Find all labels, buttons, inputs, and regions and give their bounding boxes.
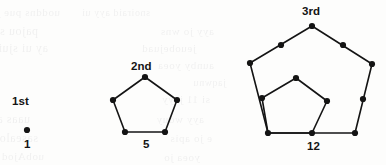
pentagon-vertex-dot (352, 130, 358, 136)
pentagon-vertex-dot (174, 97, 180, 103)
pentagon-vertex-dot (309, 130, 315, 136)
ordinal-label-3: 3rd (302, 6, 320, 18)
pentagon-edge (296, 78, 327, 101)
pentagon-vertex-dot (110, 97, 116, 103)
pentagon-vertex-dot (309, 23, 315, 29)
pentagon-vertex-dot (247, 60, 253, 66)
pentagon-vertex-dot (293, 75, 299, 81)
pentagon-vertex-dot (122, 129, 128, 135)
count-label-3: 12 (307, 141, 320, 153)
count-label-2: 5 (143, 139, 149, 151)
pentagon-edge (145, 77, 177, 100)
pentagon-edge (312, 101, 327, 133)
count-label-1: 1 (24, 139, 30, 151)
pentagon-edge (262, 78, 296, 98)
pentagon-edge (113, 77, 145, 100)
pentagon-diagram-svg (0, 0, 386, 165)
pentagon-vertex-dot (369, 61, 375, 67)
pentagon-vertex-dot (278, 42, 284, 48)
pentagon-vertex-dot (24, 127, 30, 133)
pentagon-vertex-dot (360, 96, 366, 102)
pentagon-edge (113, 100, 125, 132)
ordinal-label-2: 2nd (131, 61, 152, 73)
pentagon-edges-group (113, 26, 372, 133)
pentagon-vertex-dot (162, 129, 168, 135)
pentagon-dots-group (24, 23, 375, 136)
pentagon-edge (165, 100, 177, 132)
pentagon-vertex-dot (340, 42, 346, 48)
pentagon-vertex-dot (265, 130, 271, 136)
pentagonal-numbers-figure: uoddns pue jaysnoiraid ayy uipajou se su… (0, 0, 386, 165)
pentagon-vertex-dot (324, 98, 330, 104)
pentagon-vertex-dot (142, 74, 148, 80)
pentagon-vertex-dot (259, 95, 265, 101)
ordinal-label-1: 1st (12, 96, 29, 108)
